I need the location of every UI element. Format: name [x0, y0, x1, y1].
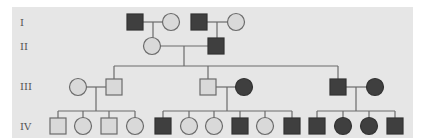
affected-female-circle-icon — [335, 118, 352, 135]
affected-male-square-icon — [155, 118, 171, 134]
unaffected-female-circle-icon — [257, 118, 274, 135]
generation-labels: IIIIIIIV — [20, 17, 32, 132]
affected-male-square-icon — [387, 118, 403, 134]
unaffected-female-circle-icon — [181, 118, 198, 135]
unaffected-male-square-icon — [50, 118, 66, 134]
unaffected-female-circle-icon — [70, 79, 87, 96]
unaffected-male-square-icon — [200, 79, 216, 95]
affected-male-square-icon — [208, 38, 224, 54]
generation-label: IV — [20, 121, 32, 132]
affected-female-circle-icon — [361, 118, 378, 135]
affected-male-square-icon — [330, 79, 346, 95]
unaffected-female-circle-icon — [228, 14, 245, 31]
affected-male-square-icon — [309, 118, 325, 134]
unaffected-female-circle-icon — [127, 118, 144, 135]
affected-female-circle-icon — [236, 79, 253, 96]
generation-label: III — [20, 81, 32, 92]
affected-male-square-icon — [284, 118, 300, 134]
unaffected-female-circle-icon — [206, 118, 223, 135]
unaffected-male-square-icon — [101, 118, 117, 134]
affected-male-square-icon — [127, 14, 143, 30]
generation-label: II — [20, 41, 28, 52]
unaffected-female-circle-icon — [144, 38, 161, 55]
unaffected-female-circle-icon — [75, 118, 92, 135]
unaffected-female-circle-icon — [163, 14, 180, 31]
affected-male-square-icon — [191, 14, 207, 30]
relationship-lines — [58, 22, 395, 118]
affected-female-circle-icon — [367, 79, 384, 96]
generation-label: I — [20, 17, 24, 28]
pedigree-chart: IIIIIIIV — [0, 0, 424, 140]
individuals — [50, 14, 403, 135]
unaffected-male-square-icon — [106, 79, 122, 95]
affected-male-square-icon — [232, 118, 248, 134]
